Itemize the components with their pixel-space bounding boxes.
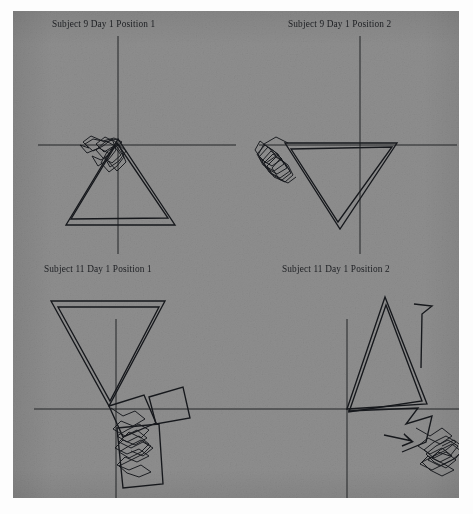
series-overshoot-polygon-b	[149, 387, 190, 424]
panel-2-plot	[236, 11, 459, 254]
panel-4-title: Subject 11 Day 1 Position 2	[282, 264, 390, 274]
panel-subject11-position2: Subject 11 Day 1 Position 2	[236, 256, 459, 498]
figure-root: Subject 9 Day 1 Position 1 Subject 9 Day…	[0, 0, 473, 514]
series-trace-scribble	[255, 137, 296, 183]
series-template-triangle-inner	[71, 143, 168, 219]
panel-subject9-position1: Subject 9 Day 1 Position 1	[13, 11, 236, 254]
series-template-triangle-inner	[349, 305, 422, 412]
panel-subject11-position1: Subject 11 Day 1 Position 1	[13, 256, 236, 498]
panel-1-title: Subject 9 Day 1 Position 1	[52, 19, 155, 29]
series-template-triangle-inner	[58, 307, 159, 401]
panel-3-title: Subject 11 Day 1 Position 1	[44, 264, 152, 274]
series-flag-polyline	[414, 304, 432, 368]
panel-4-plot	[236, 256, 459, 498]
series-template-triangle-inner	[291, 147, 392, 222]
series-arrow-mark	[384, 434, 412, 446]
scanned-figure-plate: Subject 9 Day 1 Position 1 Subject 9 Day…	[13, 11, 459, 498]
panel-1-plot	[13, 11, 236, 254]
series-template-triangle-outer	[285, 143, 397, 229]
series-template-triangle-outer	[51, 301, 165, 406]
panel-subject9-position2: Subject 9 Day 1 Position 2	[236, 11, 459, 254]
series-trace-scribble	[416, 428, 459, 476]
panel-2-title: Subject 9 Day 1 Position 2	[288, 19, 391, 29]
series-template-triangle-outer	[347, 297, 427, 409]
series-trace-scribble	[111, 408, 153, 477]
panel-3-plot	[13, 256, 236, 498]
